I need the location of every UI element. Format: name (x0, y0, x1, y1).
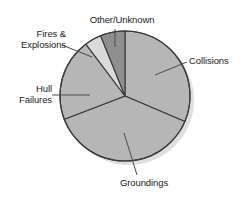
pie-chart: Other/Unknown Collisions Groundings Hull… (0, 0, 242, 200)
slice-label-groundings-text: Groundings (120, 177, 168, 188)
slice-label-hull-failures-line2: Failures (4, 94, 52, 105)
slice-label-groundings: Groundings (108, 177, 180, 188)
slice-label-hull-failures-line1: Hull (4, 83, 52, 94)
slice-label-hull-failures: Hull Failures (4, 83, 52, 105)
slice-label-fires-explosions: Fires & Explosions (4, 28, 66, 50)
slice-label-other-unknown-text: Other/Unknown (90, 14, 155, 25)
slice-label-fires-explosions-line1: Fires & (4, 28, 66, 39)
slice-label-other-unknown: Other/Unknown (74, 14, 170, 25)
slice-label-collisions: Collisions (189, 55, 241, 66)
slice-label-fires-explosions-line2: Explosions (4, 39, 66, 50)
slice-label-collisions-text: Collisions (189, 55, 229, 66)
